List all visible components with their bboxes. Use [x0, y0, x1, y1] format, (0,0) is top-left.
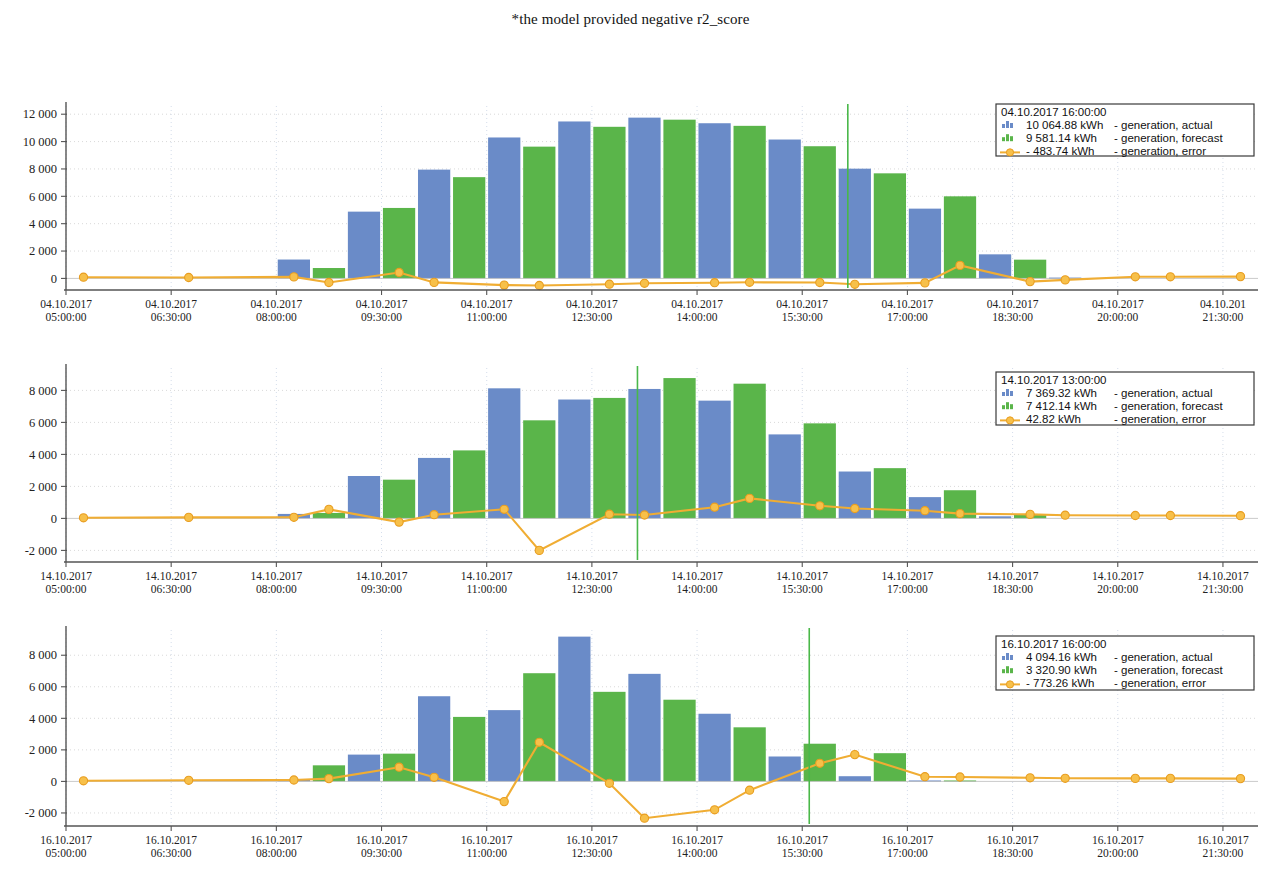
bar-actual [348, 476, 380, 518]
error-point [1026, 510, 1034, 518]
x-tick-label: 16.10.201706:30:00 [145, 834, 197, 859]
error-point [1236, 775, 1244, 783]
x-tick-label: 04.10.201705:00:00 [40, 298, 92, 323]
legend-value: - 483.74 kWh [1026, 145, 1094, 157]
bar-actual [558, 637, 590, 782]
y-tick-label: 0 [51, 272, 57, 286]
bar-actual [628, 389, 660, 518]
bar-actual [418, 696, 450, 781]
error-point [711, 279, 719, 287]
legend-value: 4 094.16 kWh [1026, 651, 1097, 663]
error-point [1061, 774, 1069, 782]
chart-legend: 16.10.2017 16:00:004 094.16 kWh- generat… [996, 636, 1254, 690]
x-tick-label: 14.10.201709:30:00 [356, 570, 408, 595]
bar-actual [698, 123, 730, 278]
error-line-group [79, 261, 1244, 289]
error-point [746, 494, 754, 502]
error-point [851, 751, 859, 759]
bar-actual [558, 400, 590, 519]
error-point [851, 504, 859, 512]
error-point [290, 273, 298, 281]
x-tick-label: 14.10.201720:00:00 [1092, 570, 1144, 595]
error-point [1026, 278, 1034, 286]
x-tick-label: 04.10.20121:30:00 [1200, 298, 1246, 323]
x-tick-label: 14.10.201717:00:00 [882, 570, 934, 595]
error-point [79, 273, 87, 281]
bar-forecast [523, 147, 555, 279]
y-tick-label: 0 [51, 512, 57, 526]
error-point [535, 738, 543, 746]
error-point [640, 279, 648, 287]
x-tick-label: 04.10.201711:00:00 [461, 298, 513, 323]
bar-forecast [453, 177, 485, 278]
x-tick-label: 04.10.201709:30:00 [356, 298, 408, 323]
x-tick-label: 14.10.201714:00:00 [671, 570, 723, 595]
legend-label: - generation, actual [1114, 651, 1212, 663]
legend-value: 42.82 kWh [1026, 413, 1081, 425]
error-point [956, 773, 964, 781]
bar-forecast [593, 692, 625, 782]
error-point [325, 775, 333, 783]
x-tick-label: 04.10.201712:30:00 [566, 298, 618, 323]
bar-actual [418, 170, 450, 279]
bar-actual [769, 140, 801, 279]
bar-forecast [663, 700, 695, 782]
bar-actual [348, 212, 380, 279]
bar-forecast [1014, 260, 1046, 279]
error-point [430, 511, 438, 519]
bar-actual [488, 388, 520, 518]
error-point [290, 513, 298, 521]
y-tick-label: 2 000 [29, 244, 57, 258]
y-tick-label: -2 000 [25, 806, 57, 820]
x-tick-label: 04.10.201715:30:00 [776, 298, 828, 323]
error-point [1236, 273, 1244, 281]
y-tick-label: 10 000 [23, 135, 57, 149]
legend-label: - generation, forecast [1114, 132, 1223, 144]
y-tick-label: 4 000 [29, 712, 57, 726]
error-point [500, 798, 508, 806]
y-tick-label: 6 000 [29, 190, 57, 204]
x-tick-label: 16.10.201721:30:00 [1197, 834, 1249, 859]
bar-forecast [313, 268, 345, 278]
legend-label: - generation, error [1114, 145, 1206, 157]
figure-note: *the model provided negative r2_score [0, 11, 1261, 28]
error-point [395, 518, 403, 526]
y-tick-label: 8 000 [29, 162, 57, 176]
y-tick-label: 4 000 [29, 217, 57, 231]
x-tick-label: 14.10.201715:30:00 [776, 570, 828, 595]
error-point [816, 278, 824, 286]
bar-forecast [453, 717, 485, 782]
y-tick-label: -2 000 [25, 544, 57, 558]
legend-label: - generation, forecast [1114, 664, 1223, 676]
x-tick-label: 04.10.201720:00:00 [1092, 298, 1144, 323]
legend-value: - 773.26 kWh [1026, 677, 1094, 689]
error-point [640, 814, 648, 822]
y-tick-label: 2 000 [29, 480, 57, 494]
error-point [185, 513, 193, 521]
x-tick-label: 14.10.201711:00:00 [461, 570, 513, 595]
bar-forecast [593, 127, 625, 279]
x-tick-label: 16.10.201712:30:00 [566, 834, 618, 859]
bar-forecast [663, 120, 695, 279]
legend-value: 7 369.32 kWh [1026, 387, 1097, 399]
error-line [84, 498, 1241, 550]
error-point [500, 281, 508, 289]
bar-series-group [278, 378, 1046, 518]
y-tick-label: 0 [51, 775, 57, 789]
chart-panel-2: -2 00002 0004 0006 0008 00014.10.201705:… [0, 360, 1261, 613]
error-point [290, 776, 298, 784]
legend-label: - generation, actual [1114, 387, 1212, 399]
bar-forecast [523, 420, 555, 518]
error-point [711, 503, 719, 511]
bar-actual [558, 121, 590, 278]
error-point [921, 507, 929, 515]
bar-forecast [874, 753, 906, 781]
x-tick-label: 14.10.201705:00:00 [40, 570, 92, 595]
error-point [185, 776, 193, 784]
error-point [640, 511, 648, 519]
bar-forecast [874, 173, 906, 278]
bar-actual [839, 776, 871, 781]
bar-actual [348, 755, 380, 782]
bar-forecast [804, 146, 836, 278]
error-point [430, 773, 438, 781]
